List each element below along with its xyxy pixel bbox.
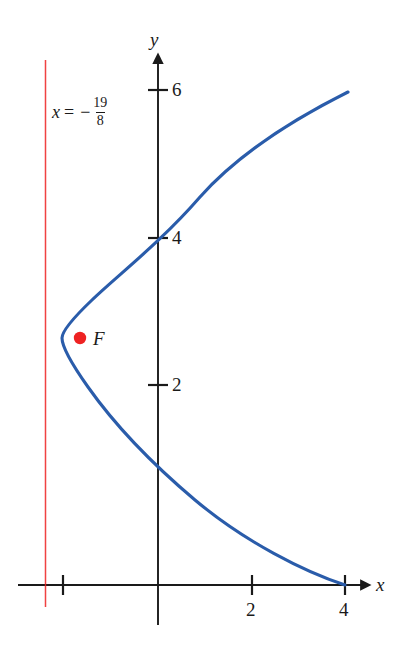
y-tick-label-4: 4 [172, 228, 182, 247]
directrix-equation-minus: − [78, 103, 92, 121]
y-tick-label-2: 2 [172, 375, 182, 394]
parabola-figure: y x 6 4 2 2 4 F x = − 19 8 [0, 0, 410, 645]
y-axis-label: y [150, 30, 158, 49]
y-axis [148, 62, 168, 625]
y-tick-label-6: 6 [172, 80, 182, 99]
focus-point [74, 332, 86, 344]
directrix-equation-equals: = [64, 103, 78, 121]
x-tick-label-2: 2 [246, 600, 256, 619]
directrix-equation-fraction: 19 8 [92, 96, 108, 128]
fraction-denominator: 8 [96, 112, 105, 129]
directrix-equation: x = − 19 8 [52, 96, 108, 128]
directrix-equation-variable: x [52, 103, 64, 121]
fraction-numerator: 19 [92, 96, 108, 112]
x-axis [18, 575, 362, 595]
focus-label: F [93, 329, 105, 348]
x-axis-label: x [376, 575, 384, 594]
x-tick-label-4: 4 [339, 600, 349, 619]
